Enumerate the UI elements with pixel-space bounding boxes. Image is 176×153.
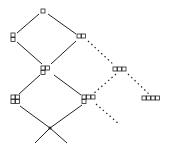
cell-box (118, 67, 122, 71)
edge-n1-n2 (48, 14, 76, 34)
edge-n21-n31 (54, 75, 81, 95)
young-lattice-diagram (0, 0, 176, 153)
cell-box (11, 95, 15, 99)
edge-n2-n21 (51, 41, 76, 64)
edge-root-out-left (35, 128, 50, 143)
cell-box (142, 96, 146, 100)
cell-box (11, 100, 15, 104)
cell-box (82, 100, 86, 104)
node-n1 (41, 9, 45, 13)
cell-box (91, 95, 95, 99)
cell-box (77, 34, 81, 38)
cell-box (41, 66, 45, 70)
cell-box (41, 71, 45, 75)
edge-n2-n3 (88, 41, 114, 65)
root-dot-icon (48, 126, 51, 129)
cell-box (41, 9, 45, 13)
nodes (11, 9, 160, 130)
edge-n31-root (50, 105, 82, 128)
cell-box (151, 96, 155, 100)
node-n211 (11, 95, 20, 104)
node-n2 (77, 34, 86, 38)
edges (17, 14, 150, 143)
cell-box (46, 66, 50, 70)
node-n31 (82, 95, 95, 104)
cell-box (87, 95, 91, 99)
node-n21 (41, 66, 50, 75)
cell-box (11, 33, 15, 37)
node-root (48, 126, 51, 129)
cell-box (82, 95, 86, 99)
cell-box (147, 96, 151, 100)
edge-n31-out-dotted (96, 104, 119, 124)
node-n11 (11, 33, 15, 42)
cell-box (113, 67, 117, 71)
edge-n211-root (20, 106, 50, 128)
edge-n1-n11 (17, 14, 39, 33)
edge-n21-n211 (19, 75, 40, 94)
node-n4 (142, 96, 160, 100)
cell-box (122, 67, 126, 71)
edge-root-out-right (50, 128, 67, 143)
cell-box (16, 95, 20, 99)
cell-box (82, 34, 86, 38)
node-n3 (113, 67, 126, 71)
edge-n11-n21 (17, 42, 42, 64)
edge-n3-n4 (128, 74, 150, 95)
cell-box (11, 38, 15, 42)
edge-n3-n31 (93, 74, 116, 94)
cell-box (16, 100, 20, 104)
cell-box (156, 96, 160, 100)
